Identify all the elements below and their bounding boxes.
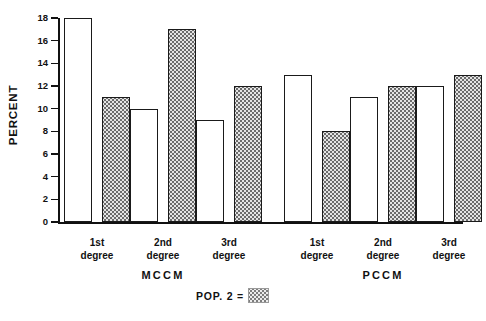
y-axis-tick-label: 14 <box>26 57 48 68</box>
bar-dotted <box>102 97 130 222</box>
y-axis-tick-label: 4 <box>26 171 48 182</box>
y-axis-tick-label: 6 <box>26 148 48 159</box>
x-axis-line <box>58 222 463 224</box>
x-axis-category-label: 3rddegree <box>190 236 268 262</box>
bar-dotted <box>322 131 350 222</box>
bar-open <box>284 75 312 222</box>
bar-open <box>196 120 224 222</box>
y-axis-tick <box>51 63 58 64</box>
x-axis-category-label: 3rddegree <box>410 236 486 262</box>
legend-swatch-pop2 <box>248 288 269 303</box>
category-label-line: 3rd <box>190 236 268 249</box>
y-axis-tick <box>51 153 58 154</box>
y-axis-tick-label: 2 <box>26 193 48 204</box>
legend-label-pop2: POP. 2 = <box>196 290 244 302</box>
y-axis-tick <box>51 176 58 177</box>
bar-open <box>350 97 378 222</box>
y-axis-tick <box>51 131 58 132</box>
y-axis-tick-label: 16 <box>26 35 48 46</box>
bar-dotted <box>234 86 262 222</box>
y-axis-tick-label: 18 <box>26 12 48 23</box>
y-axis-tick-label: 12 <box>26 80 48 91</box>
y-axis-tick-label: 0 <box>26 216 48 227</box>
group-label-mccm: MCCM <box>103 269 223 281</box>
y-axis-tick <box>51 85 58 86</box>
bar-open <box>64 18 92 222</box>
y-axis-label-wrapper: PERCENT <box>4 40 22 190</box>
bar-dotted <box>388 86 416 222</box>
group-label-pccm: PCCM <box>323 269 443 281</box>
category-label-line: 3rd <box>410 236 486 249</box>
y-axis-tick <box>51 221 58 222</box>
y-axis-tick <box>51 40 58 41</box>
y-axis-label: PERCENT <box>7 85 19 146</box>
bar-open <box>130 109 158 222</box>
bars-layer <box>58 18 463 222</box>
category-label-line: degree <box>410 249 486 262</box>
legend: POP. 2 = <box>196 288 269 303</box>
y-axis-tick-label: 10 <box>26 103 48 114</box>
y-axis-tick-label: 8 <box>26 125 48 136</box>
bar-open <box>416 86 444 222</box>
y-axis-tick <box>51 199 58 200</box>
bar-dotted <box>168 29 196 222</box>
bar-dotted <box>454 75 482 222</box>
y-axis-tick <box>51 108 58 109</box>
category-label-line: degree <box>190 249 268 262</box>
y-axis-tick <box>51 17 58 18</box>
